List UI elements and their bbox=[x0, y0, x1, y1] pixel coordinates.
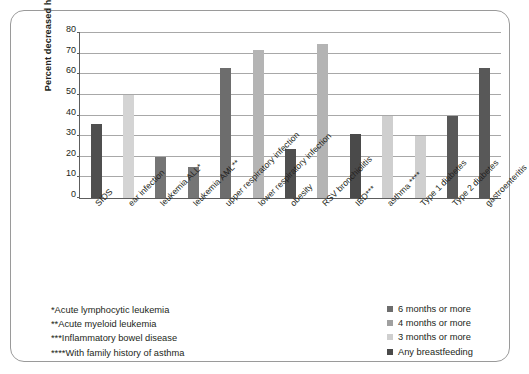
bar-slot bbox=[372, 33, 404, 198]
legend-label: 4 months or more bbox=[398, 316, 471, 330]
footnotes: *Acute lymphocytic leukemia**Acute myelo… bbox=[51, 303, 184, 360]
chart-frame: Percent decreased heath risk 01020304050… bbox=[10, 10, 510, 362]
y-tick-label: 60 bbox=[66, 65, 76, 75]
bar bbox=[123, 95, 134, 198]
legend-label: Any breastfeeding bbox=[398, 345, 473, 359]
bar-slot bbox=[112, 33, 144, 198]
legend-item: 4 months or more bbox=[387, 316, 473, 330]
chart-legend: 6 months or more4 months or more3 months… bbox=[387, 302, 473, 359]
bar bbox=[447, 116, 458, 199]
plot-area-wrapper: Percent decreased heath risk 01020304050… bbox=[57, 33, 501, 199]
footnote-line: ***Inflammatory bowel disease bbox=[51, 331, 184, 345]
y-tick-label: 50 bbox=[66, 86, 76, 96]
y-tick-label: 40 bbox=[66, 107, 76, 117]
bar bbox=[91, 124, 102, 198]
footnote-line: ****With family history of asthma bbox=[51, 346, 184, 360]
y-axis-title: Percent decreased heath risk bbox=[43, 0, 53, 111]
legend-label: 3 months or more bbox=[398, 330, 471, 344]
bar bbox=[415, 136, 426, 198]
legend-swatch-icon bbox=[387, 306, 393, 312]
legend-item: Any breastfeeding bbox=[387, 345, 473, 359]
legend-item: 6 months or more bbox=[387, 302, 473, 316]
y-tick-label: 70 bbox=[66, 45, 76, 55]
bar bbox=[317, 44, 328, 198]
legend-swatch-icon bbox=[387, 320, 393, 326]
bar-slot bbox=[307, 33, 339, 198]
footnote-line: *Acute lymphocytic leukemia bbox=[51, 303, 184, 317]
legend-swatch-icon bbox=[387, 334, 393, 340]
y-tick-label: 20 bbox=[66, 148, 76, 158]
footnote-line: **Acute myeloid leukemia bbox=[51, 317, 184, 331]
bar-slot bbox=[80, 33, 112, 198]
legend-swatch-icon bbox=[387, 349, 393, 355]
legend-label: 6 months or more bbox=[398, 302, 471, 316]
y-tick-label: 0 bbox=[71, 189, 76, 199]
bar bbox=[382, 116, 393, 199]
y-tick-label: 80 bbox=[66, 24, 76, 34]
y-tick-label: 30 bbox=[66, 127, 76, 137]
legend-item: 3 months or more bbox=[387, 330, 473, 344]
y-tick-label: 10 bbox=[66, 168, 76, 178]
